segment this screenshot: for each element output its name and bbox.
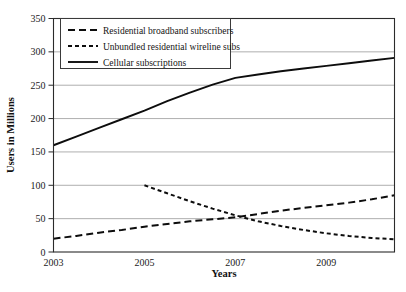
x-tick-label: 2003 xyxy=(44,257,64,268)
y-tick-label: 200 xyxy=(31,113,46,124)
legend-label-0: Residential broadband subscribers xyxy=(103,26,234,36)
x-tick-label: 2005 xyxy=(134,257,154,268)
chart-legend: Residential broadband subscribersUnbundl… xyxy=(61,19,241,69)
legend-label-1: Unbundled residential wireline subs xyxy=(103,42,240,52)
y-tick-label: 250 xyxy=(31,80,46,91)
x-axis-title: Years xyxy=(211,268,236,279)
chart-svg: 050100150200250300350 2003200520072009 Y… xyxy=(0,0,406,292)
y-axis-title: Users in Millions xyxy=(5,97,16,173)
line-chart: 050100150200250300350 2003200520072009 Y… xyxy=(0,0,406,292)
x-tick-label: 2009 xyxy=(316,257,336,268)
x-tick-label: 2007 xyxy=(225,257,245,268)
y-tick-label: 0 xyxy=(41,247,46,258)
y-tick-label: 100 xyxy=(31,180,46,191)
y-tick-label: 300 xyxy=(31,46,46,57)
y-tick-label: 150 xyxy=(31,146,46,157)
y-tick-label: 350 xyxy=(31,13,46,24)
legend-label-2: Cellular subscriptions xyxy=(103,58,186,68)
y-tick-label: 50 xyxy=(36,213,46,224)
